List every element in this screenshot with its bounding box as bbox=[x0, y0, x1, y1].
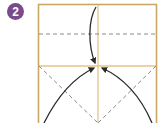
origami-fold-diagram bbox=[0, 0, 163, 123]
